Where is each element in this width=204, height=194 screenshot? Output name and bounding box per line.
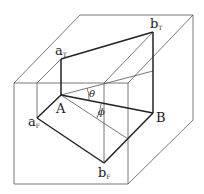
label-bF: bF bbox=[98, 165, 111, 180]
label-A: A bbox=[55, 101, 66, 116]
cube-frame bbox=[14, 15, 193, 184]
label-B: B bbox=[156, 110, 166, 125]
label-bT: bT bbox=[150, 16, 162, 31]
line-aF-bF bbox=[37, 118, 104, 163]
label-aT: aT bbox=[55, 43, 67, 58]
front-face bbox=[14, 83, 128, 184]
aT-proj-diag bbox=[37, 59, 61, 83]
line-bF-B bbox=[104, 113, 153, 163]
line-aT-bT bbox=[61, 32, 153, 59]
label-phi: ϕ bbox=[98, 106, 105, 117]
projection-diagram: aT bT A B aF bF θ ϕ bbox=[0, 0, 204, 194]
label-theta: θ bbox=[89, 88, 95, 99]
